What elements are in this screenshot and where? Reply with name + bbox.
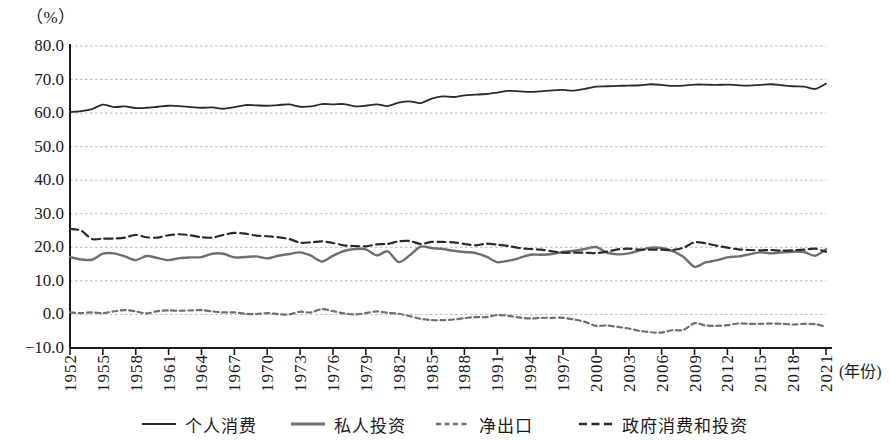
- x-axis-tick-label: 2000: [587, 354, 607, 392]
- series-line-1: [70, 246, 826, 267]
- legend-swatch-icon: [436, 418, 470, 430]
- x-axis-tick-label: 2003: [620, 354, 640, 392]
- legend-swatch-icon: [579, 418, 613, 430]
- x-axis-tick-label: 1973: [291, 354, 311, 392]
- chart-legend: 个人消费私人投资净出口政府消费和投资: [0, 407, 890, 441]
- x-axis-tick-label: 1991: [488, 354, 508, 392]
- legend-item[interactable]: 私人投资: [291, 412, 406, 437]
- x-axis-tick-label: 2021: [817, 354, 837, 392]
- legend-item[interactable]: 政府消费和投资: [579, 412, 748, 437]
- x-axis-tick-label: 1967: [225, 354, 245, 392]
- x-axis-tick-label: 1988: [455, 354, 475, 392]
- x-axis-tick-label: 1997: [554, 354, 574, 392]
- x-axis-tick-label: 1952: [61, 354, 81, 392]
- x-axis-title: (年份): [839, 358, 882, 382]
- x-axis-tick-label: 2009: [686, 354, 706, 392]
- legend-label: 政府消费和投资: [622, 412, 748, 437]
- series-line-0: [70, 84, 826, 113]
- x-axis-tick-label: 1979: [357, 354, 377, 392]
- x-axis-tick-labels: 1952195519581961196419671970197319761979…: [0, 352, 890, 410]
- x-axis-tick-label: 1964: [192, 354, 212, 392]
- x-axis-tick-label: 1982: [390, 354, 410, 392]
- legend-item[interactable]: 个人消费: [142, 412, 257, 437]
- x-axis-tick-label: 1961: [160, 354, 180, 392]
- x-axis-tick-label: 1958: [127, 354, 147, 392]
- line-chart: （%） 80.070.060.050.040.030.020.010.00.0−…: [0, 0, 890, 441]
- x-axis-tick-label: 1994: [521, 354, 541, 392]
- x-axis-tick-label: 1976: [324, 354, 344, 392]
- legend-label: 私人投资: [334, 412, 406, 437]
- series-line-2: [70, 309, 826, 333]
- legend-label: 净出口: [479, 412, 533, 437]
- x-axis-tick-label: 1970: [258, 354, 278, 392]
- legend-label: 个人消费: [185, 412, 257, 437]
- x-axis-tick-label: 2006: [653, 354, 673, 392]
- legend-item[interactable]: 净出口: [436, 412, 533, 437]
- x-axis-tick-label: 2012: [718, 354, 738, 392]
- x-axis-tick-label: 2015: [751, 354, 771, 392]
- x-axis-tick-label: 1955: [94, 354, 114, 392]
- x-axis-tick-label: 1985: [423, 354, 443, 392]
- x-axis-tick-label: 2018: [784, 354, 804, 392]
- legend-swatch-icon: [291, 418, 325, 430]
- legend-swatch-icon: [142, 418, 176, 430]
